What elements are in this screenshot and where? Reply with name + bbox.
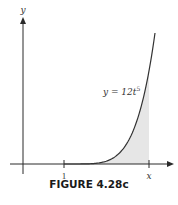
tick-label-x: x [146,171,151,181]
curve-label-base: y = 12t [102,87,137,97]
y-axis-label: y [19,5,26,15]
curve-label: y = 12t5 [102,85,140,97]
x-axis-arrow-icon [167,161,174,167]
figure-canvas: y 1 x y = 12t5 FIGURE 4.28c [0,0,178,205]
y-axis-arrow-icon [20,17,26,24]
curve-label-exponent: 5 [136,85,140,92]
figure-caption: FIGURE 4.28c [49,178,128,190]
